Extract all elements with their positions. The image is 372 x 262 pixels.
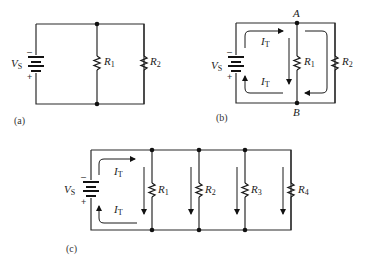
r1-label-c: R1 (157, 183, 169, 197)
r1-label-a: R1 (103, 55, 115, 69)
it-label-b-top: IT (260, 35, 270, 49)
panel-c: – + VS R1 R2 R3 R4 IT IT (c) (64, 148, 309, 255)
r1-label-b: R1 (303, 55, 315, 69)
resistor-c-r1 (149, 183, 155, 197)
battery-a-plus: + (27, 72, 32, 82)
vs-label-a: VS (11, 57, 22, 71)
r2-label-a: R2 (149, 55, 161, 69)
it-label-b-bottom: IT (260, 75, 270, 89)
it-label-c-top: IT (113, 165, 123, 179)
caption-b: (b) (216, 112, 228, 124)
battery-c-plus: + (81, 197, 86, 207)
battery-a-minus: – (27, 47, 32, 57)
caption-a: (a) (14, 115, 25, 127)
r2-label-b: R2 (341, 55, 353, 69)
resistor-b-r1 (294, 56, 300, 70)
caption-c: (c) (66, 243, 77, 255)
vs-label-b: VS (211, 59, 222, 73)
parallel-circuits-figure: – + VS R1 R2 (a) – + VS R1 R2 (0, 0, 372, 262)
vs-label-c: VS (64, 183, 75, 197)
resistor-c-r2 (196, 183, 202, 197)
it-label-c-bottom: IT (113, 203, 123, 217)
resistor-a-r1 (94, 56, 100, 70)
battery-c-minus: – (81, 172, 86, 182)
node-b-b (295, 101, 300, 106)
panel-a: – + VS R1 R2 (a) (11, 22, 161, 127)
node-label-b: B (293, 106, 300, 118)
resistor-c-r3 (242, 183, 248, 197)
node-label-a: A (292, 7, 300, 19)
wire-a-loop (36, 24, 144, 104)
battery-b (228, 57, 244, 71)
panel-b: – + VS R1 R2 A B IT IT (b) (211, 7, 353, 124)
node-a-bottom (95, 102, 100, 107)
battery-b-minus: – (227, 47, 232, 57)
battery-b-plus: + (227, 72, 232, 82)
wire-b-loop (236, 23, 335, 103)
node-b-a (295, 21, 300, 26)
r4-label-c: R4 (297, 183, 309, 197)
battery-a (28, 57, 44, 71)
battery-c (83, 182, 99, 196)
node-a-top (95, 22, 100, 27)
r3-label-c: R3 (250, 183, 262, 197)
r2-label-c: R2 (204, 183, 216, 197)
